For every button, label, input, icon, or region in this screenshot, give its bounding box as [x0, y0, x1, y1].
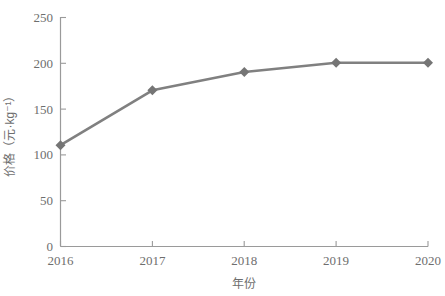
y-tick-label: 200 [34, 56, 54, 71]
x-axis-title: 年份 [232, 277, 256, 291]
x-tick-label: 2020 [415, 253, 441, 268]
y-tick-label: 100 [34, 147, 54, 162]
price-by-year-line-chart: 0 50 150 100 200 250 2016 2017 2018 2019… [0, 0, 445, 296]
chart-background [0, 0, 445, 296]
x-tick-label: 2019 [323, 253, 349, 268]
chart-canvas: 0 50 150 100 200 250 2016 2017 2018 2019… [0, 0, 445, 296]
x-tick-label: 2018 [231, 253, 257, 268]
y-tick-label: 150 [34, 102, 54, 117]
y-axis-title: 价格（元·kg⁻¹） [2, 90, 17, 177]
y-axis-title-group: 价格（元·kg⁻¹） [2, 90, 17, 177]
x-tick-label: 2017 [139, 253, 166, 268]
x-tick-label: 2016 [48, 253, 75, 268]
y-tick-label: 0 [47, 239, 54, 254]
y-tick-label: 250 [34, 10, 54, 25]
y-tick-label: 50 [40, 193, 53, 208]
